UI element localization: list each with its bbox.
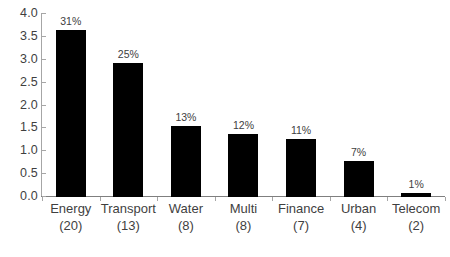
bar[interactable] [113,63,143,197]
x-axis-tick-mark [445,197,446,201]
bar-slot: 1% [387,13,445,197]
bar-slot: 31% [42,13,100,197]
bar[interactable] [344,161,374,197]
bar-value-label: 12% [233,120,254,131]
bar-slot: 25% [100,13,158,197]
category-name: Transport [100,200,158,217]
y-axis-tick-label: 4.0 [4,7,38,19]
y-axis-tick-mark [42,105,46,106]
y-axis-tick-label: 3.5 [4,30,38,42]
y-axis-tick-mark [42,59,46,60]
bar[interactable] [228,134,258,197]
category-name: Water [157,200,215,217]
x-axis-category: Telecom(2) [387,200,445,234]
bar[interactable] [286,139,316,197]
y-axis-tick-labels: 4.03.53.02.52.01.51.00.50.0 [4,0,38,257]
category-count: (13) [100,217,158,234]
bar-value-label: 1% [409,179,424,190]
category-name: Urban [330,200,388,217]
y-axis-tick-mark [42,150,46,151]
y-axis-tick-label: 2.0 [4,99,38,111]
y-axis-tick-mark [42,13,46,14]
bar-slot: 7% [330,13,388,197]
category-name: Energy [42,200,100,217]
bar[interactable] [171,126,201,197]
bar-value-label: 13% [175,112,196,123]
x-axis-category: Water(8) [157,200,215,234]
x-axis-category: Multi(8) [215,200,273,234]
category-count: (8) [157,217,215,234]
x-axis-category-labels: Energy(20)Transport(13)Water(8)Multi(8)F… [42,200,445,252]
bar[interactable] [56,30,86,197]
y-axis-tick-label: 0.0 [4,190,38,202]
category-count: (20) [42,217,100,234]
y-axis-tick-label: 1.5 [4,121,38,133]
bar-slot: 13% [157,13,215,197]
y-axis-tick-label: 0.5 [4,167,38,179]
y-axis-tick-mark [42,82,46,83]
x-axis-category: Urban(4) [330,200,388,234]
bar-chart: 4.03.53.02.52.01.51.00.50.0 31%25%13%12%… [0,0,450,257]
bar-value-label: 7% [351,147,366,158]
x-axis-tick-mark [272,197,273,201]
plot-area: 31%25%13%12%11%7%1% [42,13,445,197]
x-axis-tick-mark [42,197,43,201]
bar-value-label: 11% [291,125,311,136]
y-axis-tick-label: 3.0 [4,53,38,65]
y-axis-tick-label: 2.5 [4,76,38,88]
category-name: Telecom [387,200,445,217]
x-axis-tick-mark [157,197,158,201]
bar-value-label: 25% [118,49,139,60]
x-axis-category: Finance(7) [272,200,330,234]
y-axis-tick-label: 1.0 [4,144,38,156]
bar[interactable] [401,193,431,197]
x-axis-tick-mark [330,197,331,201]
y-axis-tick-mark [42,127,46,128]
category-name: Finance [272,200,330,217]
bar-slot: 11% [272,13,330,197]
y-axis-tick-mark [42,36,46,37]
bar-value-label: 31% [60,16,81,27]
x-axis-tick-mark [100,197,101,201]
category-count: (7) [272,217,330,234]
x-axis-category: Energy(20) [42,200,100,234]
category-count: (4) [330,217,388,234]
category-name: Multi [215,200,273,217]
bar-slot: 12% [215,13,273,197]
category-count: (8) [215,217,273,234]
x-axis-tick-mark [215,197,216,201]
x-axis-category: Transport(13) [100,200,158,234]
category-count: (2) [387,217,445,234]
y-axis-tick-mark [42,173,46,174]
x-axis-tick-mark [387,197,388,201]
